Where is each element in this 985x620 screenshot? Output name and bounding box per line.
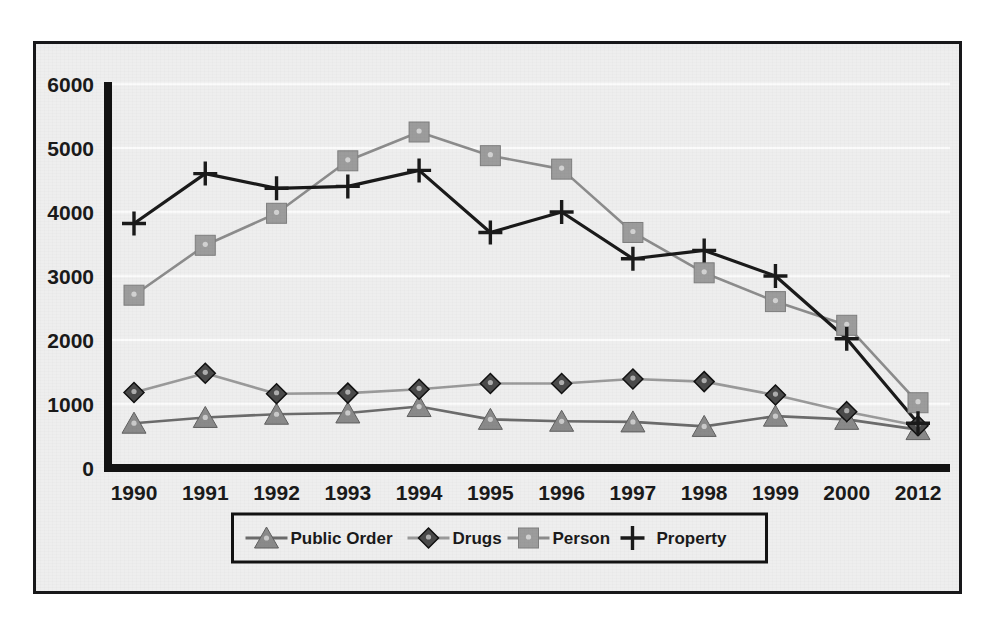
x-tick-label: 1991 [182,481,229,504]
marker-highlight [203,370,208,375]
marker-highlight [915,399,920,404]
marker-highlight [559,166,564,171]
data-point-plus [336,174,360,198]
data-point-plus [122,212,146,236]
y-tick-label: 6000 [47,73,94,96]
series-lines [134,132,918,430]
x-tick-label: 1990 [111,481,158,504]
marker-highlight [702,378,707,383]
legend-label: Public Order [291,529,393,548]
y-axis-tick-labels: 0100020003000400050006000 [47,73,94,480]
marker-highlight [203,242,208,247]
x-tick-label: 1996 [538,481,585,504]
x-axis-tick-labels: 1990199119921993199419951996199719981999… [111,481,942,504]
data-point-plus [193,162,217,186]
data-point-plus [692,238,716,262]
series-markers [122,122,930,440]
marker-highlight [426,534,431,539]
marker-highlight [345,157,350,162]
x-tick-label: 2012 [895,481,942,504]
marker-highlight [526,534,531,539]
y-tick-label: 4000 [47,201,94,224]
y-tick-label: 2000 [47,329,94,352]
marker-highlight [416,404,421,409]
x-tick-label: 2000 [823,481,870,504]
marker-highlight [264,535,269,540]
line-chart: 0100020003000400050006000 19901991199219… [36,44,959,591]
chart-legend: Public OrderDrugsPersonProperty [233,514,767,562]
marker-highlight [488,380,493,385]
legend-label: Drugs [453,529,502,548]
y-tick-label: 1000 [47,393,94,416]
series-line [134,132,918,403]
data-point-plus [265,176,289,200]
chart-frame: 0100020003000400050006000 19901991199219… [33,41,962,594]
marker-highlight [416,386,421,391]
marker-highlight [274,412,279,417]
marker-highlight [773,391,778,396]
x-tick-label: 1998 [681,481,728,504]
chart-figure: 0100020003000400050006000 19901991199219… [0,0,985,620]
marker-highlight [274,390,279,395]
marker-highlight [274,210,279,215]
x-tick-label: 1995 [467,481,514,504]
series-line [134,407,918,430]
marker-highlight [773,298,778,303]
data-point-plus [621,247,645,271]
marker-highlight [630,375,635,380]
x-tick-label: 1999 [752,481,799,504]
marker-highlight [702,269,707,274]
marker-highlight [630,229,635,234]
y-tick-label: 3000 [47,265,94,288]
marker-highlight [345,410,350,415]
legend-label: Property [657,529,727,548]
marker-highlight [203,415,208,420]
data-point-plus [621,526,645,550]
marker-highlight [559,380,564,385]
marker-highlight [131,389,136,394]
legend-label: Person [553,529,611,548]
marker-highlight [345,390,350,395]
x-tick-label: 1997 [610,481,657,504]
marker-highlight [131,292,136,297]
marker-highlight [488,152,493,157]
x-tick-label: 1992 [253,481,300,504]
y-tick-label: 0 [82,457,94,480]
marker-highlight [559,419,564,424]
marker-highlight [844,322,849,327]
x-tick-label: 1993 [324,481,371,504]
y-tick-label: 5000 [47,137,94,160]
marker-highlight [630,419,635,424]
x-tick-label: 1994 [396,481,443,504]
marker-highlight [844,408,849,413]
marker-highlight [702,424,707,429]
marker-highlight [488,417,493,422]
marker-highlight [773,414,778,419]
marker-highlight [131,421,136,426]
marker-highlight [416,128,421,133]
data-point-plus [550,200,574,224]
gridlines [108,84,950,404]
